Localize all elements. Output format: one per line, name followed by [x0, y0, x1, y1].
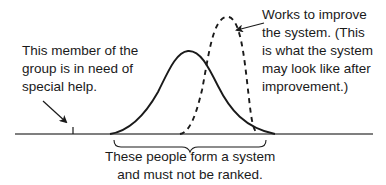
improved-system-curve [180, 17, 258, 134]
improve-system-line-3: is what the system [262, 42, 373, 60]
improve-system-line-2: the system. (This [262, 24, 373, 42]
special-help-line-3: special help. [22, 78, 138, 96]
outlier-arrow [43, 101, 66, 122]
improvement-arrow [237, 23, 264, 30]
system-group-label: These people form a system and must not … [105, 148, 275, 184]
improve-system-line-1: Works to improve [262, 6, 373, 24]
special-help-label: This member of the group is in need of s… [22, 42, 138, 96]
special-help-line-1: This member of the [22, 42, 138, 60]
improve-system-line-5: improvement.) [262, 78, 373, 96]
special-help-line-2: group is in need of [22, 60, 138, 78]
improve-system-label: Works to improve the system. (This is wh… [262, 6, 373, 96]
system-group-line-1: These people form a system [105, 148, 275, 166]
improve-system-line-4: may look like after [262, 60, 373, 78]
system-group-line-2: and must not be ranked. [105, 166, 275, 184]
